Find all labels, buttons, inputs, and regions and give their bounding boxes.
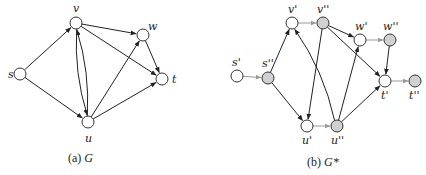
node-label-t: t — [172, 73, 177, 86]
graph-a-nodes: svwtu — [8, 2, 177, 145]
node-label-v: v — [73, 2, 80, 15]
node-u — [82, 116, 94, 128]
node-u1 — [301, 120, 313, 132]
edge-a-s-to-v — [24, 28, 70, 70]
graph-b-caption: (b) G* — [307, 155, 339, 169]
node-w2 — [384, 34, 396, 46]
node-v1 — [286, 17, 298, 29]
split-edge-b-s1-to-s2 — [243, 76, 261, 77]
node-label-u1: u' — [302, 134, 312, 147]
diagram-canvas: svwtu (a) G s's''v'v''w'w''t't''u'u'' (b… — [0, 0, 426, 175]
graph-a: svwtu (a) G — [8, 2, 177, 165]
node-u2 — [331, 120, 343, 132]
node-label-t2: t'' — [409, 89, 419, 102]
node-label-v1: v' — [288, 3, 297, 16]
node-label-u: u — [85, 132, 92, 145]
node-v2 — [317, 17, 329, 29]
edge-b-s2-to-u1 — [272, 83, 303, 121]
node-label-s1: s' — [232, 56, 241, 69]
node-w1 — [354, 34, 366, 46]
edge-b-w2-to-t1 — [386, 46, 389, 74]
graph-a-caption: (a) G — [68, 151, 93, 165]
node-label-s2: s'' — [262, 57, 274, 70]
node-t — [156, 73, 168, 85]
edge-a-u-to-w — [91, 41, 139, 117]
node-s — [14, 68, 26, 80]
node-s1 — [231, 70, 243, 82]
node-label-w: w — [148, 20, 158, 33]
edge-b-u2-to-t1 — [341, 86, 380, 122]
edge-a-u-to-t — [93, 83, 156, 119]
graph-b: s's''v'v''w'w''t't''u'u'' (b) G* — [231, 3, 421, 169]
edge-a-w-to-t — [145, 41, 159, 73]
node-label-s: s — [8, 68, 14, 81]
node-label-w1: w' — [355, 20, 367, 33]
node-v — [70, 17, 82, 29]
node-label-v2: v'' — [317, 3, 329, 16]
edge-b-v2-to-t1 — [327, 27, 380, 76]
node-s2 — [262, 72, 274, 84]
node-label-u2: u'' — [331, 134, 344, 147]
node-label-w2: w'' — [383, 20, 398, 33]
node-label-t1: t' — [381, 89, 388, 102]
graph-b-nodes: s's''v'v''w'w''t't''u'u'' — [231, 3, 421, 147]
node-t2 — [409, 75, 421, 87]
node-t1 — [379, 75, 391, 87]
edge-a-s-to-u — [25, 77, 82, 118]
